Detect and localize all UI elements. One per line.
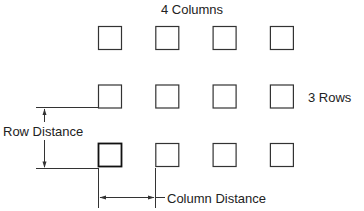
grid-square xyxy=(99,144,122,167)
arrow-right-icon xyxy=(148,196,155,200)
grid-square xyxy=(156,144,179,167)
columns-label: 4 Columns xyxy=(161,2,224,17)
arrow-left-icon xyxy=(100,196,107,200)
grid-square xyxy=(213,85,236,108)
grid-square xyxy=(270,85,293,108)
row-distance-label: Row Distance xyxy=(3,124,83,139)
rows-label: 3 Rows xyxy=(308,90,352,105)
square-grid xyxy=(99,27,294,167)
grid-square xyxy=(270,27,293,50)
column-distance-label: Column Distance xyxy=(167,191,266,206)
grid-square xyxy=(270,144,293,167)
grid-square xyxy=(99,27,122,50)
arrow-down-icon xyxy=(43,162,47,169)
arrow-up-icon xyxy=(43,109,47,116)
array-pattern-diagram: 4 Columns 3 Rows Row Distance Column Dis… xyxy=(0,0,364,211)
grid-square xyxy=(213,27,236,50)
grid-square xyxy=(156,85,179,108)
grid-square xyxy=(99,85,122,108)
grid-square xyxy=(213,144,236,167)
grid-square xyxy=(156,27,179,50)
